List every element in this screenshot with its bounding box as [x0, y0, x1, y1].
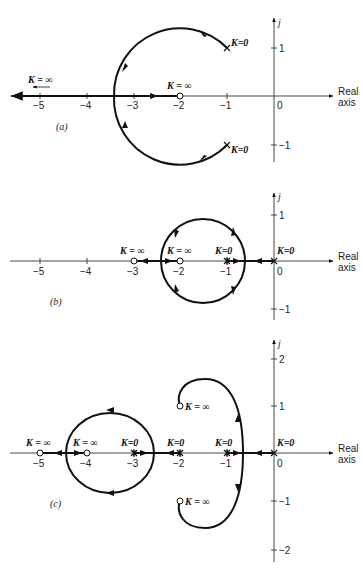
zero-marker [177, 258, 183, 264]
imag-axis-label: j [276, 17, 281, 28]
annotation-k0: K=0 [214, 437, 232, 448]
tick-label: −1 [220, 266, 232, 277]
tick-label: 0 [277, 100, 283, 111]
annotation-k-inf: K = ∞ [27, 74, 53, 85]
annotation-k0: K=0 [120, 437, 138, 448]
real-axis-label-2: axis [338, 97, 356, 108]
zero-marker [177, 403, 183, 409]
annotation-k-inf: K = ∞ [72, 437, 98, 448]
zero-marker [84, 450, 90, 456]
tick-label: 0 [277, 458, 283, 469]
tick-label: −4 [80, 100, 92, 111]
annotation-k-inf: K = ∞ [25, 437, 51, 448]
annotation-k-inf: K = ∞ [184, 496, 210, 507]
root-locus-figure: j Real axis −5 −4 −3 −2 −1 0 1 −1 [0, 0, 363, 568]
tick-label: 0 [277, 266, 283, 277]
imag-axis-label: j [276, 191, 281, 202]
real-axis-label: Real [338, 251, 359, 262]
annotation-k-inf: K = ∞ [166, 80, 192, 91]
tick-label: 1 [279, 210, 285, 221]
zero-marker [37, 450, 43, 456]
tick-label: −1 [279, 140, 291, 151]
real-axis-label: Real [338, 443, 359, 454]
panel-label: (b) [50, 296, 62, 308]
tick-label: −5 [33, 100, 45, 111]
real-axis-label-2: axis [338, 262, 356, 273]
imag-axis-label: j [276, 338, 281, 349]
tick-label: −3 [127, 458, 139, 469]
tick-label: −4 [80, 458, 92, 469]
tick-label: −2 [173, 100, 185, 111]
tick-label: −2 [173, 266, 185, 277]
locus-branches [12, 28, 227, 164]
annotation-k0: K=0 [230, 144, 248, 155]
tick-label: −1 [220, 100, 232, 111]
zero-marker [177, 93, 183, 99]
panel-label: (c) [50, 498, 62, 510]
real-axis-label: Real [338, 86, 359, 97]
annotation-k-inf: K = ∞ [166, 245, 192, 256]
zero-marker [177, 498, 183, 504]
panel-a: j Real axis −5 −4 −3 −2 −1 0 1 −1 [10, 17, 359, 165]
tick-label: −3 [127, 266, 139, 277]
locus-branches [42, 379, 274, 528]
zero-marker [131, 258, 137, 264]
panel-b: j Real axis −5 −4 −3 −2 −1 0 1 −1 [10, 191, 359, 320]
annotation-k0: K=0 [214, 245, 232, 256]
tick-label: −5 [33, 458, 45, 469]
tick-label: 1 [279, 401, 285, 412]
tick-label: 1 [279, 43, 285, 54]
annotation-k0: K=0 [166, 437, 184, 448]
panel-c: j Real axis −5 −4 −3 −2 −1 0 2 1 −1 −2 [10, 338, 359, 562]
annotation-k0: K=0 [276, 245, 294, 256]
panel-label: (a) [56, 121, 68, 133]
tick-label: −2 [173, 458, 185, 469]
tick-label: 2 [279, 354, 285, 365]
tick-label: −4 [80, 266, 92, 277]
tick-label: −5 [33, 266, 45, 277]
tick-label: −1 [279, 304, 291, 315]
tick-label: −2 [279, 545, 291, 556]
real-axis-label-2: axis [338, 454, 356, 465]
tick-label: −3 [127, 100, 139, 111]
annotation-k0: K=0 [276, 437, 294, 448]
annotation-k-inf: K = ∞ [184, 401, 210, 412]
tick-label: −1 [279, 496, 291, 507]
annotation-k-inf: K = ∞ [119, 245, 145, 256]
annotation-k0: K=0 [230, 37, 248, 48]
tick-label: −1 [220, 458, 232, 469]
